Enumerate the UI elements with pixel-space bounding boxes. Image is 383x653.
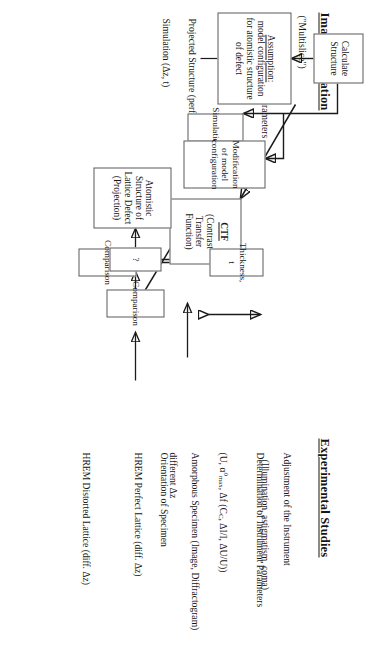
calculate-structure-box: Calculate Structure	[313, 33, 363, 83]
determination-of-parameters-label: Determination of Instrument Parameters	[254, 452, 265, 607]
assumption-title: Assumption:	[265, 34, 276, 82]
orientation-of-specimen-label: Orientation of Specimen	[158, 452, 169, 546]
amorphous-line1: Amorphous Specimen (Image, Diffractogram…	[189, 452, 200, 630]
thickness-box: Thickness, t	[209, 248, 263, 276]
simulation-dz-t-label: Simulation (Δz, t)	[160, 18, 171, 87]
adjustment-line1: Adjustment of the Instrument	[281, 452, 292, 565]
image-simulation-subheading: ("Multislice")	[296, 15, 307, 68]
instrument-parameters-formula: (U, α0max, Δf (CC, ΔI/I, ΔU/U))	[216, 452, 240, 572]
formula-suffix-sub: C	[217, 513, 224, 518]
simulation-box: Simulation	[187, 113, 243, 141]
atomistic-structure-box: Atomistic Structure of Lattice Defect (P…	[93, 167, 171, 228]
assumption-rest: model configuration for atomistic struct…	[233, 17, 265, 99]
ctf-title: CTF	[217, 222, 228, 241]
experimental-studies-heading: Experimental Studies	[317, 438, 332, 557]
question-box: ?	[109, 247, 161, 271]
assumption-box: Assumption: model configuration for atom…	[217, 12, 291, 104]
formula-sub: max	[217, 475, 224, 487]
comparison-lower-box: Comparison	[106, 289, 164, 317]
formula-suffix2: , ΔI/I, ΔU/U))	[218, 518, 229, 572]
formula-suffix: , Δf (C	[218, 487, 229, 513]
formula-prefix: (U, α	[218, 452, 229, 472]
hrem-perfect-lattice-label: HREM Perfect Lattice (diff. Δz)	[132, 452, 143, 576]
diagram-canvas: Image Simulation ("Multislice") Input of…	[0, 0, 383, 653]
amorphous-specimen-label: Amorphous Specimen (Image, Diffractogram…	[167, 452, 212, 630]
modification-box: Modification of model configuration	[183, 140, 265, 188]
diagram-frame: Image Simulation ("Multislice") Input of…	[0, 0, 383, 653]
hrem-distorted-lattice-label: HREM Distorted Lattice (diff. Δz)	[80, 452, 91, 585]
